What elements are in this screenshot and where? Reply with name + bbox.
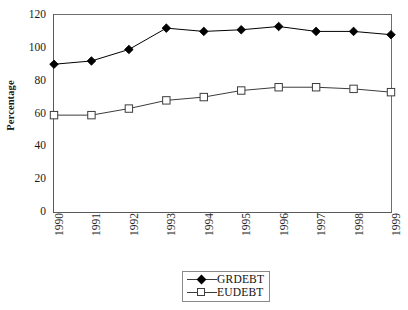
x-axis-tick-label: 1999 xyxy=(383,213,397,263)
x-axis-tick-value: 1998 xyxy=(353,213,366,236)
series-line-eudebt xyxy=(54,87,391,115)
y-axis-tick-value: 100 xyxy=(29,41,46,53)
x-axis-tick-label: 1997 xyxy=(308,213,322,263)
x-axis-tick-value: 1991 xyxy=(90,213,103,236)
y-axis-tick-value: 20 xyxy=(35,172,47,184)
x-axis-tick-label: 1996 xyxy=(271,213,285,263)
y-axis-tick-label: 100 xyxy=(0,41,50,53)
x-axis-tick-value: 1994 xyxy=(203,213,216,236)
data-point-marker-square xyxy=(275,84,282,91)
chart-figure: Percentage 020406080100120 1990199119921… xyxy=(0,0,408,310)
data-point-marker-diamond xyxy=(274,22,283,31)
x-axis-tick-label: 1991 xyxy=(83,213,97,263)
y-axis-tick-label: 40 xyxy=(0,139,50,151)
data-point-marker-square xyxy=(88,111,95,118)
x-axis-tick-value: 1996 xyxy=(278,213,291,236)
legend-item-eudebt: EUDEBT xyxy=(187,286,264,299)
y-axis-tick-label: 20 xyxy=(0,172,50,184)
y-axis-tick-value: 120 xyxy=(29,8,46,20)
y-axis-tick-value: 40 xyxy=(35,139,47,151)
x-axis-tick-value: 1990 xyxy=(53,213,66,236)
y-axis-tick-labels: 020406080100120 xyxy=(0,0,50,226)
x-axis-tick-label: 1995 xyxy=(233,213,247,263)
y-axis-tick-label: 60 xyxy=(0,107,50,119)
data-point-marker-diamond xyxy=(349,27,358,36)
data-point-marker-diamond xyxy=(87,57,96,66)
chart-legend: GRDEBT EUDEBT xyxy=(182,271,270,302)
plot-area xyxy=(53,14,392,213)
data-point-marker-square xyxy=(200,93,207,100)
series-layer xyxy=(54,15,391,212)
data-point-marker-diamond xyxy=(162,24,171,33)
data-point-marker-diamond xyxy=(125,45,134,54)
data-point-marker-square xyxy=(312,84,319,91)
y-axis-tick-label: 120 xyxy=(0,8,50,20)
y-axis-tick-value: 60 xyxy=(35,107,47,119)
x-axis-tick-value: 1995 xyxy=(240,213,253,236)
y-axis-tick-label: 0 xyxy=(0,205,50,217)
x-axis-tick-value: 1999 xyxy=(390,213,403,236)
legend-item-label: EUDEBT xyxy=(217,286,264,299)
data-point-marker-diamond xyxy=(237,25,246,34)
data-point-marker-diamond xyxy=(312,27,321,36)
x-axis-tick-label: 1994 xyxy=(196,213,210,263)
x-axis-tick-label: 1992 xyxy=(121,213,135,263)
x-axis-tick-label: 1990 xyxy=(46,213,60,263)
data-point-marker-square xyxy=(238,87,245,94)
data-point-marker-diamond xyxy=(387,30,396,39)
legend-item-grdebt: GRDEBT xyxy=(187,273,264,286)
open-square-icon xyxy=(187,286,217,299)
series-line-grdebt xyxy=(54,26,391,64)
x-axis-tick-labels: 1990199119921993199419951996199719981999 xyxy=(53,213,390,265)
y-axis-tick-value: 80 xyxy=(35,74,47,86)
x-axis-tick-label: 1993 xyxy=(158,213,172,263)
data-point-marker-square xyxy=(163,97,170,104)
y-axis-tick-label: 80 xyxy=(0,74,50,86)
data-point-marker-square xyxy=(125,105,132,112)
x-axis-tick-value: 1997 xyxy=(315,213,328,236)
data-point-marker-diamond xyxy=(199,27,208,36)
data-point-marker-diamond xyxy=(50,60,59,69)
x-axis-tick-label: 1998 xyxy=(346,213,360,263)
data-point-marker-square xyxy=(350,85,357,92)
data-point-marker-square xyxy=(387,88,394,95)
legend-item-label: GRDEBT xyxy=(217,273,264,286)
filled-diamond-icon xyxy=(187,273,217,286)
x-axis-tick-value: 1993 xyxy=(165,213,178,236)
data-point-marker-square xyxy=(50,111,57,118)
x-axis-tick-value: 1992 xyxy=(128,213,141,236)
